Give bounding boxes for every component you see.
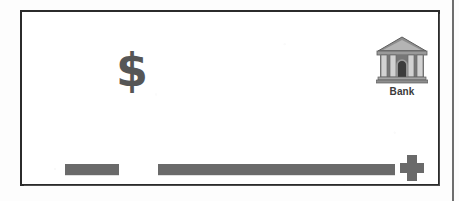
dollar-sign-icon: $	[102, 40, 162, 100]
page-margin-rule	[452, 0, 454, 201]
bank-label: Bank	[374, 86, 430, 97]
scanned-page: $	[0, 0, 459, 201]
short-gray-bar	[65, 164, 119, 175]
bank-icon-group: Bank	[374, 35, 430, 103]
diagram-frame: $	[20, 10, 440, 186]
plus-icon-vertical-stroke	[407, 155, 417, 181]
bank-building-icon	[376, 35, 428, 85]
long-gray-bar	[158, 164, 395, 175]
plus-icon	[400, 155, 424, 181]
